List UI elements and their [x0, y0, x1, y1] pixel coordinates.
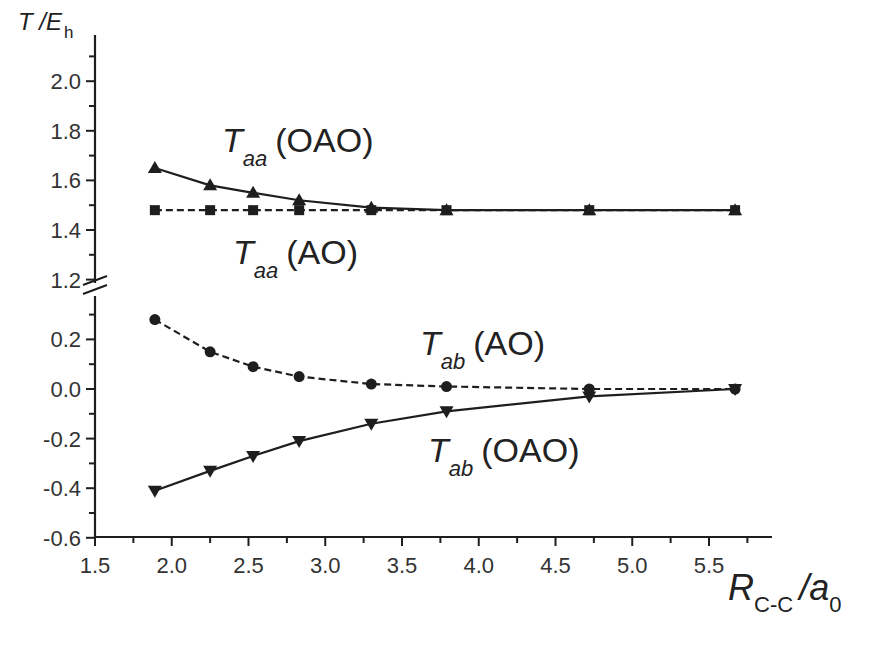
axes: 1.52.02.53.03.54.04.55.05.51.21.41.61.82… [18, 8, 842, 617]
series-t-aa-ao- [150, 205, 740, 215]
y-tick-label: 1.6 [50, 168, 81, 193]
x-tick-label: 3.0 [310, 553, 341, 578]
y-tick-label: 1.2 [50, 268, 81, 293]
square-marker [366, 205, 376, 215]
series-line [155, 168, 735, 210]
circle-marker [149, 314, 160, 325]
chart: 1.52.02.53.03.54.04.55.05.51.21.41.61.82… [0, 0, 878, 646]
series-label: Taa(AO) [233, 233, 358, 283]
y-tick-label: -0.4 [43, 476, 81, 501]
square-marker [584, 205, 594, 215]
axis-break-mark [83, 285, 107, 294]
series-label: Taa(OAO) [222, 121, 373, 171]
x-tick-label: 2.0 [156, 553, 187, 578]
circle-marker [294, 371, 305, 382]
series-label: Tab(AO) [420, 324, 545, 374]
x-tick-label: 5.5 [694, 553, 725, 578]
y-axis-title: T /Eh [18, 8, 73, 42]
circle-marker [205, 346, 216, 357]
x-tick-label: 3.5 [387, 553, 418, 578]
square-marker [205, 205, 215, 215]
x-tick-label: 4.5 [540, 553, 571, 578]
series-label: Tab(OAO) [428, 431, 579, 481]
y-tick-label: 0.0 [50, 377, 81, 402]
triangle-down-marker [148, 486, 162, 498]
x-tick-label: 5.0 [617, 553, 648, 578]
x-axis-title: RC-C /a0 [728, 567, 842, 617]
circle-marker [248, 361, 259, 372]
square-marker [294, 205, 304, 215]
square-marker [730, 205, 740, 215]
x-tick-label: 4.0 [463, 553, 494, 578]
square-marker [442, 205, 452, 215]
circle-marker [441, 381, 452, 392]
y-tick-label: 1.4 [50, 218, 81, 243]
triangle-up-marker [148, 161, 162, 173]
y-tick-label: 0.2 [50, 327, 81, 352]
square-marker [248, 205, 258, 215]
y-tick-label: -0.2 [43, 427, 81, 452]
square-marker [150, 205, 160, 215]
y-tick-label: -0.6 [43, 526, 81, 551]
series-labels: Taa(OAO)Taa(AO)Tab(AO)Tab(OAO) [222, 121, 579, 481]
y-tick-label: 2.0 [50, 69, 81, 94]
x-tick-label: 2.5 [233, 553, 264, 578]
y-tick-label: 1.8 [50, 119, 81, 144]
x-tick-label: 1.5 [80, 553, 111, 578]
circle-marker [366, 379, 377, 390]
